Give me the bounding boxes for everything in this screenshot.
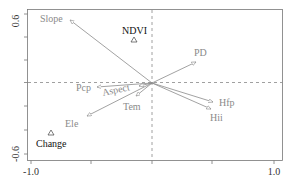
x-axis-ticks (31, 161, 274, 165)
label-hii: Hii (210, 112, 223, 123)
point-ndvi-marker (131, 37, 137, 42)
point-change-marker (48, 130, 54, 135)
arrow-hfp (152, 83, 213, 102)
label-slope: Slope (40, 13, 63, 24)
label-pcp: Pcp (76, 82, 91, 93)
label-change: Change (36, 138, 67, 149)
y-tick-max: 0.6 (10, 15, 21, 28)
label-aspect: Aspect (101, 81, 131, 98)
y-axis-ticks (24, 14, 28, 154)
label-hfp: Hfp (219, 97, 235, 108)
y-tick-min: -0.6 (10, 146, 21, 162)
arrow-hii (152, 83, 211, 109)
arrow-pd (152, 62, 196, 83)
x-tick-max: 1.0 (268, 166, 281, 177)
label-pd: PD (194, 47, 207, 58)
rda-biplot: 0.6 -0.6 -1.0 1.0 Slope PD Hfp Hii Pcp A… (0, 0, 289, 179)
label-tem: Tem (123, 101, 141, 112)
label-ele: Ele (65, 118, 79, 129)
label-ndvi: NDVI (122, 25, 147, 36)
x-tick-min: -1.0 (23, 166, 39, 177)
